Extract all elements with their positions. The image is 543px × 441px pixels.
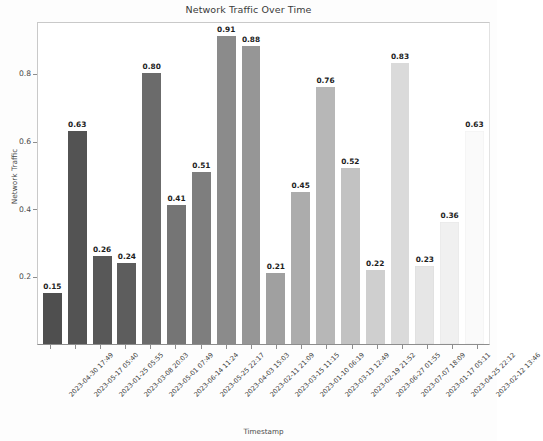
bar-slot: 0.51 <box>189 23 214 344</box>
bar-series: 0.150.630.260.240.800.410.510.910.880.21… <box>38 23 489 344</box>
bar-value-label: 0.45 <box>292 181 310 190</box>
y-tick-label: 0.8 <box>19 69 31 78</box>
x-tick-label: 2023-05-17 05:40 <box>92 351 140 399</box>
bar-value-label: 0.52 <box>341 157 359 166</box>
x-tick-label: 2023-03-08 20:03 <box>142 351 190 399</box>
bar[interactable]: 0.36 <box>440 222 459 344</box>
x-tick-mark <box>150 345 151 349</box>
bar-value-label: 0.21 <box>267 262 285 271</box>
x-tick-label: 2023-02-19 21:52 <box>369 351 417 399</box>
x-tick-label: 2023-02-11 21:09 <box>268 351 316 399</box>
x-tick-mark <box>452 345 453 349</box>
bar[interactable]: 0.24 <box>117 263 136 344</box>
bar-value-label: 0.80 <box>143 62 161 71</box>
bar-slot: 0.76 <box>313 23 338 344</box>
bar-value-label: 0.91 <box>217 25 235 34</box>
bar-slot: 0.63 <box>65 23 90 344</box>
x-tick-label: 2023-02-12 13:46 <box>495 351 543 399</box>
bar-value-label: 0.24 <box>118 252 136 261</box>
x-tick-label: 2023-04-03 15:03 <box>243 351 291 399</box>
x-axis-label: Timestamp <box>37 427 490 436</box>
bar-slot: 0.22 <box>363 23 388 344</box>
x-tick-label: 2023-06-27 01:55 <box>394 351 442 399</box>
bar[interactable]: 0.63 <box>465 131 484 344</box>
y-tick-label: 0.4 <box>19 205 31 214</box>
x-tick-label: 2023-01-25 05:55 <box>117 351 165 399</box>
x-tick-mark <box>75 345 76 349</box>
x-tick-label: 2023-04-30 17:49 <box>67 351 115 399</box>
x-tick-mark <box>100 345 101 349</box>
bar-value-label: 0.26 <box>93 245 111 254</box>
x-tick-mark <box>427 345 428 349</box>
bar-slot: 0.91 <box>214 23 239 344</box>
bar-slot: 0.88 <box>239 23 264 344</box>
x-tick-mark <box>477 345 478 349</box>
bar[interactable]: 0.26 <box>93 256 112 344</box>
bar-slot: 0.63 <box>462 23 487 344</box>
bar-value-label: 0.88 <box>242 35 260 44</box>
x-tick-mark <box>377 345 378 349</box>
bar-slot: 0.24 <box>114 23 139 344</box>
x-tick-label: 2023-06-14 11:24 <box>193 351 241 399</box>
bar[interactable]: 0.63 <box>68 131 87 344</box>
y-axis: Network Traffic 0.20.40.60.8 <box>0 22 37 345</box>
bar-slot: 0.26 <box>90 23 115 344</box>
bar-value-label: 0.15 <box>43 282 61 291</box>
bar-slot: 0.21 <box>263 23 288 344</box>
bar-value-label: 0.83 <box>391 52 409 61</box>
bar[interactable]: 0.91 <box>217 36 236 344</box>
bar[interactable]: 0.52 <box>341 168 360 344</box>
bar[interactable]: 0.21 <box>266 273 285 344</box>
bar-value-label: 0.23 <box>416 255 434 264</box>
bar[interactable]: 0.51 <box>192 172 211 344</box>
x-tick-label: 2023-03-15 11:15 <box>293 351 341 399</box>
bar-slot: 0.36 <box>437 23 462 344</box>
x-tick-label: 2023-07-07 18:09 <box>419 351 467 399</box>
x-tick-mark <box>175 345 176 349</box>
bar-value-label: 0.76 <box>316 76 334 85</box>
x-tick-mark <box>50 345 51 349</box>
bar[interactable]: 0.22 <box>366 270 385 344</box>
x-tick-label: 2023-04-25 22:12 <box>470 351 518 399</box>
x-tick-mark <box>352 345 353 349</box>
x-tick-mark <box>326 345 327 349</box>
bar[interactable]: 0.45 <box>291 192 310 344</box>
bar-slot: 0.83 <box>388 23 413 344</box>
y-axis-label: Network Traffic <box>10 117 19 237</box>
bar-value-label: 0.36 <box>441 211 459 220</box>
bar-value-label: 0.63 <box>465 120 483 129</box>
x-tick-mark <box>301 345 302 349</box>
x-tick-label: 2023-05-25 22:17 <box>218 351 266 399</box>
bar[interactable]: 0.88 <box>242 46 261 344</box>
bar[interactable]: 0.80 <box>142 73 161 344</box>
bar-slot: 0.52 <box>338 23 363 344</box>
plot-area: 0.150.630.260.240.800.410.510.910.880.21… <box>37 22 490 345</box>
x-tick-mark <box>226 345 227 349</box>
x-tick-label: 2023-05-01 07:49 <box>168 351 216 399</box>
y-tick-label: 0.2 <box>19 272 31 281</box>
bar[interactable]: 0.76 <box>316 87 335 344</box>
bar-slot: 0.23 <box>412 23 437 344</box>
bar-slot: 0.15 <box>40 23 65 344</box>
bar-slot: 0.45 <box>288 23 313 344</box>
bar-value-label: 0.51 <box>192 161 210 170</box>
bar[interactable]: 0.23 <box>415 266 434 344</box>
x-tick-mark <box>276 345 277 349</box>
x-tick-label: 2023-03-13 12:49 <box>344 351 392 399</box>
bar[interactable]: 0.15 <box>43 293 62 344</box>
bar[interactable]: 0.83 <box>391 63 410 344</box>
chart-title: Network Traffic Over Time <box>0 4 497 15</box>
bar-value-label: 0.41 <box>167 194 185 203</box>
y-tick-label: 0.6 <box>19 137 31 146</box>
bar[interactable]: 0.41 <box>167 205 186 344</box>
bar-slot: 0.80 <box>139 23 164 344</box>
x-tick-mark <box>251 345 252 349</box>
bar-slot: 0.41 <box>164 23 189 344</box>
x-tick-label: 2023-01-17 05:11 <box>444 351 492 399</box>
x-tick-mark <box>402 345 403 349</box>
x-tick-label: 2023-01-10 06:19 <box>319 351 367 399</box>
bar-value-label: 0.22 <box>366 259 384 268</box>
bar-value-label: 0.63 <box>68 120 86 129</box>
x-tick-mark <box>125 345 126 349</box>
